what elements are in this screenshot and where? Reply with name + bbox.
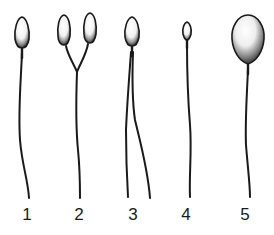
label-3: 3 [123,205,143,225]
specimen-3-double-tail [125,17,150,198]
tail [19,52,29,198]
tail-left [126,52,131,197]
left-neck [66,46,77,72]
sperm-morphology-figure [0,0,274,235]
label-2: 2 [69,205,89,225]
head-icon [232,15,264,64]
specimen-2-double-head [58,13,97,198]
tail-right [132,52,150,198]
label-5: 5 [235,205,255,225]
tail [187,44,191,197]
right-neck [77,44,88,72]
tail [76,72,80,198]
left-head-icon [58,15,71,45]
head-icon [125,17,139,46]
right-head-icon [84,13,97,43]
head-icon [183,22,192,40]
specimen-5-large-head [232,15,264,197]
label-1: 1 [17,205,37,225]
specimen-1-normal [15,17,29,198]
tail [246,68,250,197]
head-icon [15,17,29,48]
specimen-4-small-head [183,22,192,197]
label-4: 4 [176,205,196,225]
